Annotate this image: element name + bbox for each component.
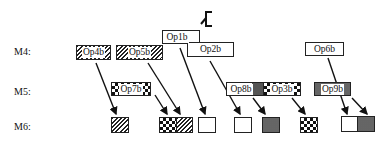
m6-block-7a <box>341 116 358 132</box>
op7b-box: Op7b <box>111 82 151 96</box>
op6b-label: Op6b <box>313 44 336 55</box>
m6-block-1 <box>111 117 129 133</box>
op2b-label: Op2b <box>199 44 222 55</box>
op6b-box: Op6b <box>305 42 344 56</box>
m6-block-2b <box>176 117 193 133</box>
op3b-box: Op3b <box>263 82 301 96</box>
m6-block-4 <box>234 117 252 133</box>
op9b-box: Op9b <box>314 82 351 96</box>
op7b-label: Op7b <box>119 84 142 95</box>
op4b-label: Op4b <box>82 47 105 58</box>
op9b-label: Op9b <box>321 84 344 95</box>
op8b-label: Op8b <box>229 84 252 95</box>
m6-block-3 <box>198 117 216 133</box>
op8b-box: Op8b <box>226 82 264 96</box>
m6-block-6 <box>300 117 318 133</box>
m6-block-5 <box>262 117 280 133</box>
m6-block-2a <box>159 117 177 133</box>
op1b-label: Op1b <box>165 32 188 43</box>
bracket-icon <box>201 12 212 26</box>
op5b-label: Op5b <box>128 47 151 58</box>
op3b-label: Op3b <box>270 84 293 95</box>
op4b-box: Op4b <box>76 45 111 60</box>
m6-block-7b <box>357 116 375 132</box>
op2b-box: Op2b <box>187 42 234 57</box>
op5b-box: Op5b <box>116 45 163 60</box>
